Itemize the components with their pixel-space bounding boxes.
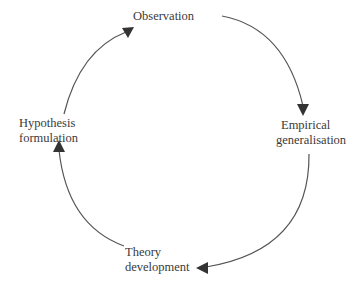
arrowhead-to-theory-icon bbox=[196, 262, 208, 274]
node-observation-line-1: Observation bbox=[133, 9, 194, 24]
node-theory-development: Theory development bbox=[125, 245, 190, 275]
arrowhead-to-empirical-icon bbox=[297, 104, 309, 116]
arc-empirical-to-theory bbox=[206, 154, 309, 267]
arc-observation-to-empirical bbox=[222, 16, 303, 106]
node-hypothesis-line-1: Hypothesis bbox=[19, 116, 78, 131]
arc-theory-to-hypothesis bbox=[59, 150, 124, 246]
node-hypothesis-line-2: formulation bbox=[19, 131, 78, 146]
node-theory-line-1: Theory bbox=[125, 245, 190, 260]
arc-hypothesis-to-observation bbox=[64, 32, 126, 114]
node-empirical-line-1: Empirical bbox=[276, 118, 346, 133]
research-cycle-diagram: Observation Empirical generalisation The… bbox=[0, 0, 363, 291]
node-observation: Observation bbox=[133, 9, 194, 24]
node-hypothesis-formulation: Hypothesis formulation bbox=[19, 116, 78, 146]
node-theory-line-2: development bbox=[125, 260, 190, 275]
node-empirical-generalisation: Empirical generalisation bbox=[276, 118, 346, 148]
node-empirical-line-2: generalisation bbox=[276, 133, 346, 148]
